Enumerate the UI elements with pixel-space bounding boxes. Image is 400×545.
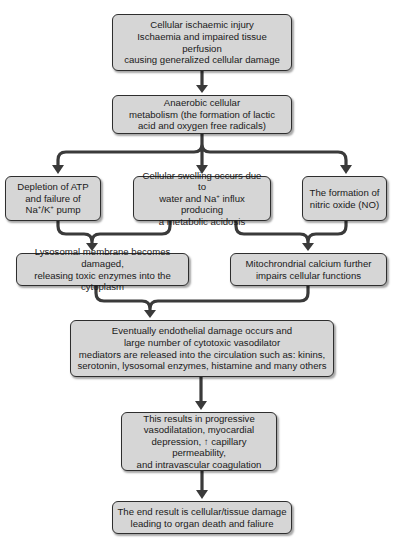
node-lysosomal-damage: Lysosomal membrane becomes damaged, rele…: [16, 253, 189, 286]
node-progressive-vasodilatation: This results in progressive vasodilatati…: [121, 412, 277, 471]
flowchart-canvas: Cellular ischaemic injury Ischaemia and …: [0, 0, 400, 545]
node-cellular-ischaemic-injury: Cellular ischaemic injury Ischaemia and …: [112, 14, 292, 71]
node-anaerobic-metabolism: Anaerobic cellular metabolism (the forma…: [112, 95, 292, 134]
node-endothelial-damage: Eventually endothelial damage occurs and…: [70, 320, 334, 377]
node-text: Cellular swelling occurs due to water an…: [138, 170, 266, 228]
node-text: Cellular ischaemic injury Ischaemia and …: [117, 19, 287, 65]
node-nitric-oxide: The formation of nitric oxide (NO): [302, 176, 387, 221]
node-text: The end result is cellular/tissue damage…: [117, 506, 286, 529]
node-end-result: The end result is cellular/tissue damage…: [112, 501, 292, 534]
node-text: Depletion of ATP and failure of Na+/K+ p…: [17, 181, 88, 216]
node-text: Mitochrondrial calcium further impairs c…: [246, 258, 372, 281]
node-cellular-swelling: Cellular swelling occurs due to water an…: [133, 176, 271, 221]
arrow-metabolism-branches: [58, 134, 346, 166]
node-text: This results in progressive vasodilatati…: [126, 413, 272, 471]
node-atp-depletion: Depletion of ATP and failure of Na+/K+ p…: [5, 176, 101, 221]
node-text: Anaerobic cellular metabolism (the forma…: [129, 97, 275, 132]
node-mitochondrial-calcium: Mitochrondrial calcium further impairs c…: [230, 253, 387, 286]
node-text: The formation of nitric oxide (NO): [310, 187, 380, 210]
node-text: Lysosomal membrane becomes damaged, rele…: [21, 246, 184, 292]
node-text: Eventually endothelial damage occurs and…: [77, 325, 326, 371]
